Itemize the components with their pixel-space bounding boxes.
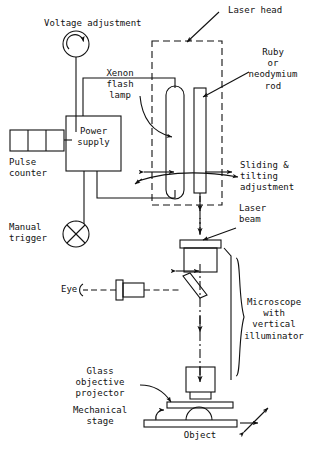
label-pulse-counter: Pulse counter [9,157,47,179]
laser-head-enclosure [152,41,222,205]
label-sliding-tilting-adjustment: Sliding & tilting adjustment [240,160,294,194]
label-microscope: Microscope with vertical illuminator [237,297,311,342]
diagram-canvas: Voltage adjustment Laser head Ruby or ne… [0,0,311,451]
stage-translation-arrows [240,408,268,432]
sliding-tilting-adjustment-arrows [135,172,238,184]
label-glass-objective-projector: Glass objective projector [60,366,140,400]
mechanical-stage-bar [144,420,237,427]
label-laser-head: Laser head [228,5,282,16]
label-eye: Eye [61,284,77,295]
label-mechanical-stage: Mechanical stage [60,405,140,427]
beam-splitter-mirror [183,273,207,298]
microscope-tube-wall [224,248,231,380]
xenon-flash-lamp-tube [166,86,184,199]
label-voltage-adjustment: Voltage adjustment [44,18,142,29]
eyepiece [116,280,144,300]
voltage-adjustment-dial-group [63,31,89,132]
label-laser-beam: Laser beam [239,203,266,225]
label-manual-trigger: Manual trigger [9,222,47,244]
manual-trigger-switch [63,221,89,247]
label-ruby-rod: Ruby or neodymium rod [239,47,307,92]
label-object: Object [170,430,230,441]
stage-rotation-arrow [156,410,164,420]
label-power-supply: Power supply [69,126,118,148]
label-xenon-flash-lamp: Xenon flash lamp [99,68,141,102]
object-specimen [186,407,212,420]
eye-symbol [80,284,88,296]
pulse-counter-box [10,130,72,151]
laser-rod [194,88,206,193]
leader-lines [140,12,249,402]
